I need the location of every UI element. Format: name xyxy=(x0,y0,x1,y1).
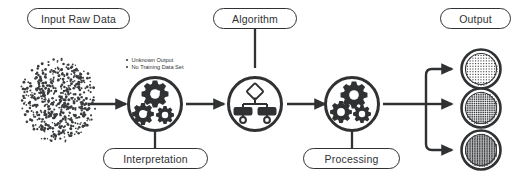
arrow-branch-bottom xyxy=(426,104,452,150)
label-processing[interactable]: Processing xyxy=(303,148,400,169)
output-medium-node xyxy=(462,89,501,128)
arrow-branch-top xyxy=(426,69,452,104)
annotation-item: No Training Data Set xyxy=(126,64,210,71)
bullet-dot-icon xyxy=(126,66,128,68)
processing-node xyxy=(326,78,379,131)
label-output[interactable]: Output xyxy=(440,8,511,29)
label-processing-text: Processing xyxy=(325,153,379,165)
label-interpretation-text: Interpretation xyxy=(123,153,188,165)
annotation-list: Unknown Output No Training Data Set xyxy=(126,57,210,71)
bullet-dot-icon xyxy=(126,59,128,61)
label-algorithm[interactable]: Algorithm xyxy=(213,8,297,29)
annotation-item: Unknown Output xyxy=(126,57,210,64)
algorithm-node xyxy=(229,78,282,131)
output-dense-node xyxy=(462,131,501,170)
scatter-cloud-icon xyxy=(21,58,97,143)
label-algorithm-text: Algorithm xyxy=(232,13,278,25)
label-input-raw-data[interactable]: Input Raw Data xyxy=(27,8,130,29)
interpretation-node: ? xyxy=(129,78,182,131)
label-output-text: Output xyxy=(459,13,492,25)
svg-text:?: ? xyxy=(162,110,167,120)
label-input-raw-data-text: Input Raw Data xyxy=(41,13,116,25)
diagram-canvas: ? xyxy=(0,0,521,183)
output-sparse-node xyxy=(462,50,501,89)
annotation-text: No Training Data Set xyxy=(132,64,184,70)
label-interpretation[interactable]: Interpretation xyxy=(103,148,208,169)
annotation-text: Unknown Output xyxy=(132,57,174,63)
